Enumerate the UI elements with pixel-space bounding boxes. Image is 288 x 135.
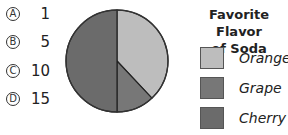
choice-bubble[interactable]: B xyxy=(6,35,20,49)
choice-value: 5 xyxy=(30,33,50,51)
choice-a[interactable]: A xyxy=(6,4,20,24)
choice-value: 10 xyxy=(30,62,50,80)
choice-value: 1 xyxy=(30,5,50,23)
choice-b[interactable]: B xyxy=(6,32,20,52)
pie-slice-cherry xyxy=(66,10,117,112)
legend-label-orange: Orange xyxy=(239,50,288,66)
legend-label-grape: Grape xyxy=(239,80,282,96)
legend-swatch-cherry xyxy=(200,107,224,129)
choice-bubble[interactable]: A xyxy=(6,7,20,21)
choice-bubble[interactable]: C xyxy=(6,64,20,78)
choice-value: 15 xyxy=(30,90,50,108)
legend-label-cherry: Cherry xyxy=(239,110,286,126)
legend-swatch-grape xyxy=(200,77,224,99)
legend-swatch-orange xyxy=(200,47,224,69)
pie-chart xyxy=(64,8,170,114)
choice-bubble[interactable]: D xyxy=(6,92,20,106)
choice-d[interactable]: D xyxy=(6,89,20,109)
choice-c[interactable]: C xyxy=(6,61,20,81)
